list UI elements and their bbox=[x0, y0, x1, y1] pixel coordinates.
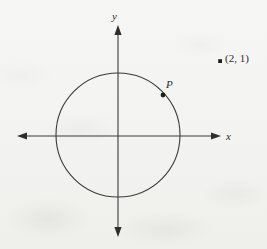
x-axis-label: x bbox=[226, 131, 231, 142]
point-p-marker bbox=[161, 93, 166, 98]
circle-diagram-figure: y x P (2, 1) bbox=[0, 0, 267, 249]
y-axis-label: y bbox=[112, 11, 117, 22]
y-axis-down-arrowhead bbox=[114, 227, 121, 237]
coordinate-plane-graphic bbox=[0, 0, 267, 249]
y-axis-up-arrowhead bbox=[114, 25, 121, 35]
point-p-label: P bbox=[166, 79, 173, 90]
x-axis-left-arrowhead bbox=[17, 132, 27, 139]
point-coordinate-marker bbox=[218, 59, 222, 63]
point-coordinate-label: (2, 1) bbox=[225, 53, 249, 64]
x-axis-right-arrowhead bbox=[211, 132, 221, 139]
